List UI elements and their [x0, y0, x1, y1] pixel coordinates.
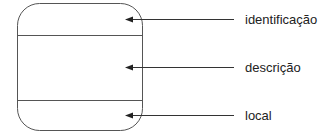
label-descricao: descrição	[245, 61, 301, 74]
arrowhead-icon	[125, 65, 133, 71]
record-box	[18, 4, 143, 131]
arrow-local	[125, 113, 234, 119]
arrowhead-icon	[125, 113, 133, 119]
label-identificacao: identificação	[245, 13, 317, 26]
label-local: local	[245, 109, 272, 122]
arrow-descricao	[125, 65, 234, 71]
arrowhead-icon	[125, 17, 133, 23]
